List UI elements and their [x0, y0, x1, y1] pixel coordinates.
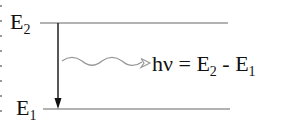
upper-level-label: E2: [10, 11, 30, 33]
photon-energy-equation: hν = E2 - E1: [152, 53, 256, 75]
upper-level-subscript: 2: [23, 22, 30, 37]
lower-level-symbol: E: [16, 95, 29, 120]
eq-e1-symbol: E: [235, 51, 248, 76]
photon-arrowhead-icon: [141, 59, 150, 68]
eq-e2-subscript: 2: [210, 64, 217, 79]
upper-level-symbol: E: [10, 9, 23, 34]
planck-h: h: [152, 51, 163, 76]
eq-e2-symbol: E: [196, 51, 209, 76]
lower-level-subscript: 1: [29, 108, 36, 123]
equals-sign: =: [178, 51, 190, 76]
photon-wave: [62, 57, 142, 65]
transition-arrowhead-icon: [55, 98, 62, 109]
frequency-nu: ν: [163, 51, 173, 76]
eq-e1-subscript: 1: [249, 64, 256, 79]
minus-sign: -: [222, 51, 229, 76]
lower-level-label: E1: [16, 97, 36, 119]
